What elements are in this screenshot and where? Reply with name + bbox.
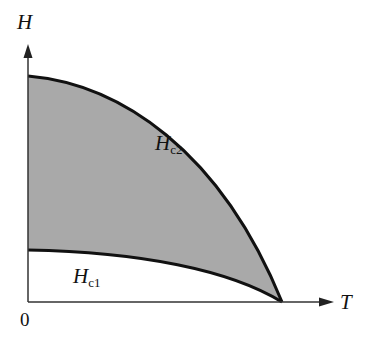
phase-diagram [0,0,374,342]
hc1-label-sub: c1 [88,275,100,290]
x-axis-arrow-icon [319,298,334,307]
hc2-label-sub: c2 [170,142,182,157]
x-axis-label: T [340,290,352,315]
hc1-label-main: H [73,264,88,288]
origin-label: 0 [20,309,30,331]
hc1-label: Hc1 [73,264,100,291]
hc2-label: Hc2 [155,131,182,158]
y-axis-arrow-icon [24,44,33,58]
mixed-state-region [28,76,282,302]
y-axis-label: H [17,10,32,35]
hc2-label-main: H [155,131,170,155]
